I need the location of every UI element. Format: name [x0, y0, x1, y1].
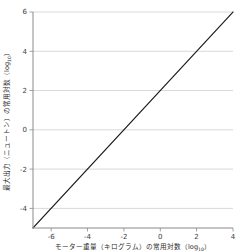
chart-figure: 6 4 2 0 -2 -4 -6 -4 -2 0 2 4 モーター重量（キログラ…	[0, 0, 241, 252]
x-tick-label-neg4: -4	[84, 233, 92, 241]
y-axis-title-main: 最大出力（ニュートン）の常用対数（log	[2, 62, 11, 191]
y-axis-title: 最大出力（ニュートン）の常用対数（log10）	[2, 49, 12, 191]
y-tick-label-neg4: -4	[20, 205, 28, 213]
x-axis-title-tail: ）	[204, 243, 211, 251]
chart-canvas: 6 4 2 0 -2 -4 -6 -4 -2 0 2 4 モーター重量（キログラ…	[0, 0, 241, 252]
y-tick-marks	[30, 12, 34, 208]
x-tick-label-neg2: -2	[120, 233, 127, 241]
x-tick-marks	[51, 228, 233, 232]
y-tick-label-neg2: -2	[20, 166, 27, 174]
x-axis-title-main: モーター重量（キログラム）の常用対数（log	[55, 242, 198, 251]
y-tick-label-2: 2	[23, 87, 27, 95]
x-tick-label-neg6: -6	[48, 233, 56, 241]
y-tick-label-0: 0	[23, 126, 27, 134]
x-tick-label-4: 4	[231, 233, 236, 241]
x-tick-label-2: 2	[194, 233, 198, 241]
x-tick-label-0: 0	[158, 233, 162, 241]
y-tick-label-6: 6	[23, 8, 28, 16]
y-tick-label-4: 4	[23, 48, 28, 56]
y-axis-title-tail: ）	[3, 49, 11, 56]
x-axis-title: モーター重量（キログラム）の常用対数（log10）	[55, 242, 211, 252]
